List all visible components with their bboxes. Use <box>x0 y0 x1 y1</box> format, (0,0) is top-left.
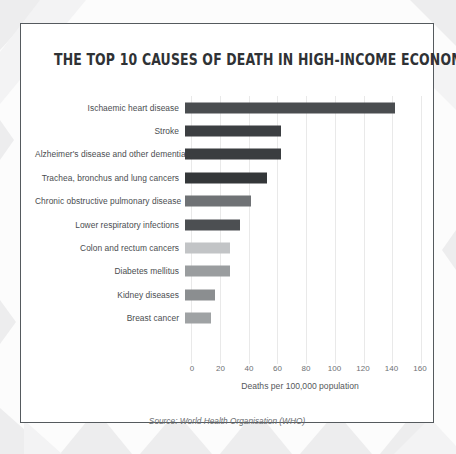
category-label: Breast cancer <box>35 313 185 323</box>
chart-card: THE TOP 10 CAUSES OF DEATH IN HIGH-INCOM… <box>20 23 434 423</box>
chart-bar-row: Diabetes mellitus <box>35 260 421 283</box>
chart-bar <box>185 172 267 183</box>
chart-bar <box>185 266 230 277</box>
x-tick-label: 80 <box>302 364 311 373</box>
chart-bar-row: Colon and rectum cancers <box>35 236 421 259</box>
chart-bar <box>185 243 230 254</box>
x-axis-label: Deaths per 100,000 population <box>177 381 423 391</box>
chart-bar-row: Breast cancer <box>35 307 421 330</box>
plot-area: Ischaemic heart diseaseStrokeAlzheimer's… <box>35 96 421 364</box>
category-label: Lower respiratory infections <box>35 220 185 230</box>
x-axis-ticks: 020406080100120140160 <box>191 364 421 380</box>
chart-bar <box>185 196 251 207</box>
chart-bar-row: Alzheimer's disease and other dementias <box>35 143 421 166</box>
bar-track <box>185 166 421 189</box>
category-label: Stroke <box>35 126 185 136</box>
category-label: Ischaemic heart disease <box>35 103 185 113</box>
chart-bar-row: Kidney diseases <box>35 283 421 306</box>
source-note: Source: World Health Organisation (WHO) <box>21 416 433 426</box>
chart-bar-row: Ischaemic heart disease <box>35 96 421 119</box>
x-tick-label: 100 <box>328 364 341 373</box>
chart-bar <box>185 102 395 113</box>
category-label: Trachea, bronchus and lung cancers <box>35 173 185 183</box>
category-label: Chronic obstructive pulmonary disease <box>35 196 185 206</box>
chart-bar-row: Lower respiratory infections <box>35 213 421 236</box>
x-tick-label: 120 <box>356 364 369 373</box>
bar-track <box>185 307 421 330</box>
x-tick-label: 160 <box>413 364 426 373</box>
bar-track <box>185 283 421 306</box>
category-label: Colon and rectum cancers <box>35 243 185 253</box>
bar-track <box>185 213 421 236</box>
chart-bar-row: Stroke <box>35 119 421 142</box>
x-tick-label: 40 <box>245 364 254 373</box>
chart-bar <box>185 126 281 137</box>
chart-bar-row: Trachea, bronchus and lung cancers <box>35 166 421 189</box>
chart-bar <box>185 149 281 160</box>
bar-track <box>185 236 421 259</box>
category-label: Alzheimer's disease and other dementias <box>35 149 185 159</box>
x-tick-label: 0 <box>190 364 194 373</box>
chart-bar <box>185 313 211 324</box>
x-tick-label: 140 <box>385 364 398 373</box>
category-label: Kidney diseases <box>35 290 185 300</box>
bar-track <box>185 260 421 283</box>
x-tick-label: 20 <box>216 364 225 373</box>
category-label: Diabetes mellitus <box>35 266 185 276</box>
chart-bar <box>185 289 215 300</box>
chart-bar <box>185 219 240 230</box>
chart-title: THE TOP 10 CAUSES OF DEATH IN HIGH-INCOM… <box>54 50 400 69</box>
gridline <box>421 96 422 364</box>
chart-bar-row: Chronic obstructive pulmonary disease <box>35 190 421 213</box>
bar-track <box>185 96 421 119</box>
bar-track <box>185 143 421 166</box>
bar-track <box>185 190 421 213</box>
bar-track <box>185 119 421 142</box>
x-tick-label: 60 <box>273 364 282 373</box>
